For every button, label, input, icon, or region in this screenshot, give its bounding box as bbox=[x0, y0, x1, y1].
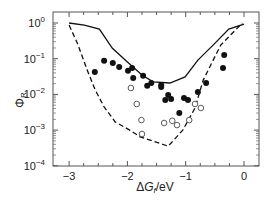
y-tick-label: 100 bbox=[28, 15, 45, 29]
x-tick-label: −1 bbox=[179, 170, 192, 182]
open-data-point bbox=[198, 105, 204, 111]
filled-data-point bbox=[101, 58, 107, 64]
plot-border bbox=[53, 12, 259, 166]
y-tick-label: 10−4 bbox=[24, 158, 46, 172]
filled-data-point bbox=[116, 64, 122, 70]
open-data-point bbox=[192, 101, 198, 107]
filled-data-point bbox=[162, 97, 168, 103]
filled-data-point bbox=[203, 80, 209, 86]
open-data-point bbox=[134, 101, 140, 107]
filled-data-point bbox=[129, 65, 135, 71]
open-data-point bbox=[139, 131, 145, 137]
series-layer bbox=[69, 23, 244, 146]
filled-data-point bbox=[176, 110, 182, 116]
filled-data-point bbox=[140, 73, 146, 79]
open-data-point bbox=[186, 117, 192, 123]
filled-data-point bbox=[168, 96, 174, 102]
x-axis-title: ΔGf/eV bbox=[136, 180, 174, 195]
open-data-point bbox=[174, 122, 180, 128]
filled-data-point bbox=[148, 80, 154, 86]
filled-data-point bbox=[130, 75, 136, 81]
open-data-point bbox=[170, 118, 176, 124]
open-data-point bbox=[128, 85, 134, 91]
x-tick-label: −3 bbox=[63, 170, 76, 182]
y-axis: 10010−110−210−310−4 bbox=[24, 15, 259, 172]
open-data-point bbox=[139, 117, 145, 123]
y-tick-label: 10−1 bbox=[24, 51, 46, 65]
filled-data-point bbox=[110, 60, 116, 66]
x-tick-label: 0 bbox=[241, 170, 247, 182]
x-tick-label: −2 bbox=[121, 170, 134, 182]
plot-frame bbox=[53, 12, 259, 166]
filled-data-point bbox=[92, 69, 98, 75]
filled-data-point bbox=[158, 84, 164, 90]
filled-data-point bbox=[221, 52, 227, 58]
filled-data-point bbox=[220, 65, 226, 71]
chart: −3−2−10 10010−110−210−310−4 ΔGf/eV ΦR bbox=[0, 0, 275, 207]
filled-data-point bbox=[195, 89, 201, 95]
y-tick-label: 10−3 bbox=[24, 122, 46, 136]
open-data-point bbox=[161, 120, 167, 126]
x-axis: −3−2−10 bbox=[63, 12, 247, 182]
filled-data-point bbox=[185, 97, 191, 103]
y-axis-title: ΦR bbox=[13, 92, 28, 108]
